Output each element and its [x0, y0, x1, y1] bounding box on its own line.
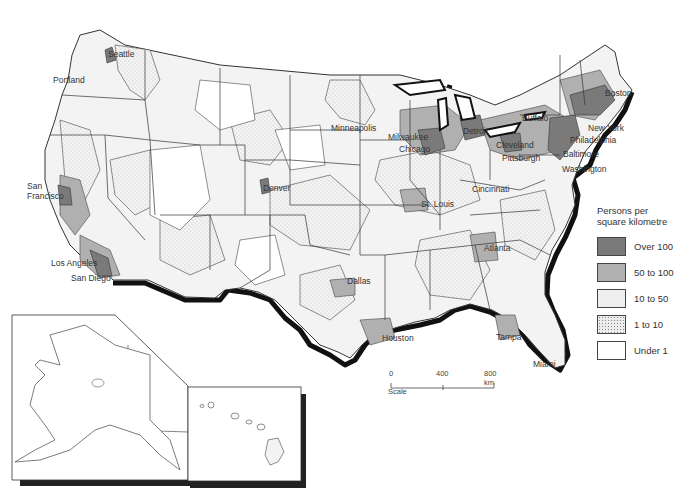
city-label-buffalo: Buffalo: [522, 113, 548, 123]
alaska-inset: [12, 315, 190, 486]
legend-item-50-to-100: 50 to 100: [597, 259, 689, 285]
city-label-st-louis: St. Louis: [421, 199, 454, 209]
population-density-map: [0, 0, 689, 500]
scale-tick-800: 800 km: [484, 369, 498, 387]
city-label-detroit: Detroit: [463, 126, 488, 136]
hawaii-inset: [188, 387, 306, 488]
swatch-1-to-10: [597, 315, 626, 334]
legend-item-1-to-10: 1 to 10: [597, 311, 689, 337]
legend-title-line2: square kilometre: [597, 216, 689, 227]
city-label-chicago: Chicago: [399, 144, 430, 154]
city-label-cincinnati: Cincinnati: [472, 184, 509, 194]
city-label-dallas: Dallas: [347, 276, 371, 286]
city-label-miami: Miami: [533, 359, 556, 369]
city-label-washington: Washington: [562, 164, 607, 174]
city-label-baltimore: Baltimore: [563, 149, 599, 159]
swatch-over-100: [597, 237, 626, 256]
legend-item-over-100: Over 100: [597, 233, 689, 259]
city-label-atlanta: Atlanta: [484, 243, 510, 253]
city-label-boston: Boston: [605, 88, 631, 98]
city-label-seattle: Seattle: [108, 49, 134, 59]
city-label-philadelphia: Philadelphia: [570, 135, 616, 145]
legend-title-line1: Persons per: [597, 205, 689, 216]
city-label-milwaukee: Milwaukee: [388, 132, 428, 142]
city-label-san-francisco: San Francisco: [27, 181, 64, 201]
city-label-portland: Portland: [53, 75, 85, 85]
swatch-under-1: [597, 341, 626, 360]
legend-item-under-1: Under 1: [597, 337, 689, 363]
scale-tick-0: 0: [389, 369, 393, 378]
city-label-tampa: Tampa: [496, 332, 522, 342]
city-label-houston: Houston: [382, 333, 414, 343]
swatch-50-to-100: [597, 263, 626, 282]
scale-tick-400: 400: [436, 369, 449, 378]
legend-title: Persons per square kilometre: [597, 205, 689, 227]
city-label-minneapolis: Minneapolis: [331, 123, 376, 133]
city-label-cleveland: Cleveland: [496, 140, 534, 150]
scale: 0 400 800 km Scale: [388, 369, 498, 399]
city-label-los-angeles: Los Angeles: [51, 258, 97, 268]
city-label-new-york: New York: [588, 123, 624, 133]
legend-item-10-to-50: 10 to 50: [597, 285, 689, 311]
city-label-pittsburgh: Pittsburgh: [502, 153, 540, 163]
scale-title: Scale: [388, 387, 407, 396]
city-label-denver: Denver: [263, 183, 290, 193]
swatch-10-to-50: [597, 289, 626, 308]
city-label-san-diego: San Diego: [71, 273, 111, 283]
legend: Persons per square kilometre Over 100 50…: [597, 205, 689, 363]
